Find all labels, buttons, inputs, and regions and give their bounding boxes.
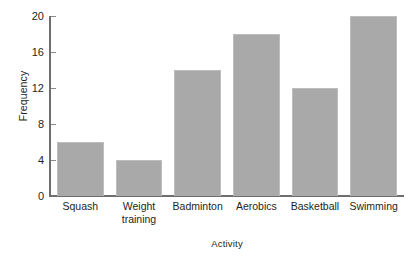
y-tick-label-4: 4 [22, 155, 44, 166]
y-tick-label-8: 8 [22, 119, 44, 130]
bar-squash [57, 142, 104, 196]
x-tick-label-weight-training: Weight training [106, 200, 173, 225]
x-axis-title: Activity [51, 238, 403, 249]
y-tick-label-12: 12 [22, 83, 44, 94]
bar-basketball [292, 88, 339, 196]
bar-weight-training [116, 160, 163, 196]
x-axis-tick-labels: SquashWeight trainingBadmintonAerobicsBa… [51, 200, 403, 234]
y-axis-tick-labels: 201612840 [22, 0, 44, 258]
bar-badminton [174, 70, 221, 196]
x-tick-label-swimming: Swimming [340, 200, 407, 213]
y-tick-label-20: 20 [22, 11, 44, 22]
plot-area [51, 16, 403, 196]
bar-swimming [350, 16, 397, 196]
bar-aerobics [233, 34, 280, 196]
y-tick-label-0: 0 [22, 191, 44, 202]
x-tick-label-badminton: Badminton [164, 200, 231, 213]
x-tick-label-basketball: Basketball [282, 200, 349, 213]
bar-chart: Frequency 201612840 SquashWeight trainin… [0, 0, 412, 258]
x-tick-label-aerobics: Aerobics [223, 200, 290, 213]
x-tick-label-squash: Squash [47, 200, 114, 213]
y-tick-label-16: 16 [22, 47, 44, 58]
